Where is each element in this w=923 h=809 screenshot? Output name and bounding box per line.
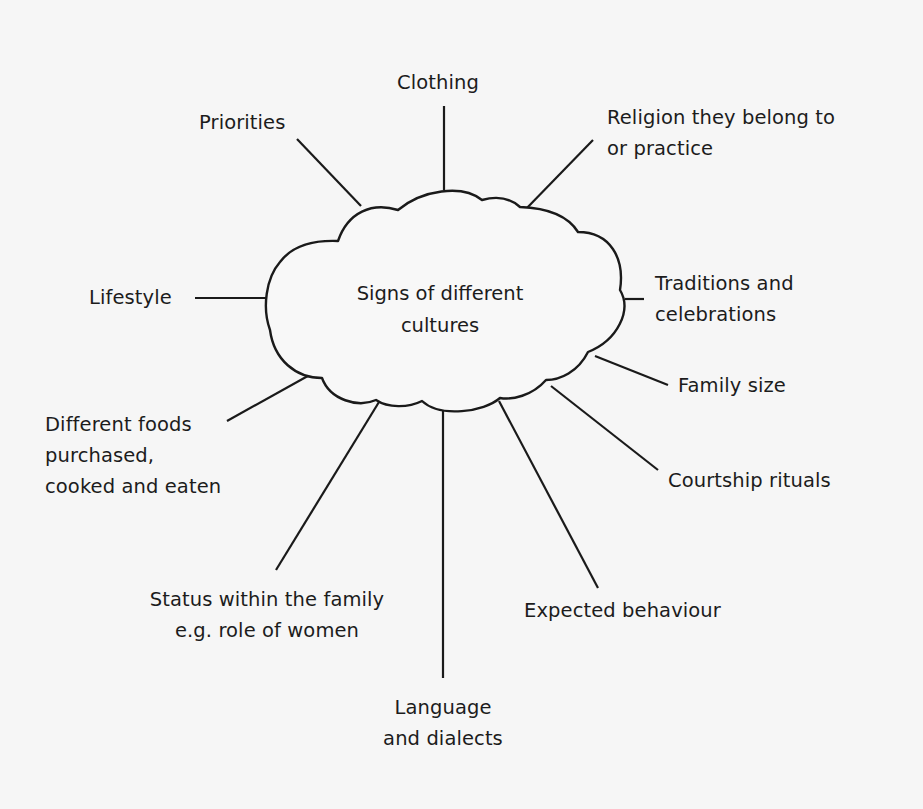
node-traditions-line-2: celebrations bbox=[655, 299, 794, 330]
node-expected-behaviour-text: Expected behaviour bbox=[524, 595, 721, 626]
node-language-line-1: Language bbox=[365, 692, 521, 723]
spoke-expected-behaviour bbox=[499, 401, 598, 588]
spoke-religion bbox=[524, 140, 593, 211]
node-different-foods-line-1: Different foods bbox=[45, 409, 221, 440]
node-language-line-2: and dialects bbox=[365, 723, 521, 754]
spoke-different-foods bbox=[227, 372, 315, 421]
spoke-family-size bbox=[595, 356, 668, 385]
node-traditions: Traditions and celebrations bbox=[655, 268, 794, 330]
spoke-priorities bbox=[297, 139, 361, 206]
node-status-line-1: Status within the family bbox=[132, 584, 402, 615]
node-priorities: Priorities bbox=[199, 107, 285, 138]
node-clothing: Clothing bbox=[397, 67, 479, 98]
node-status: Status within the family e.g. role of wo… bbox=[132, 584, 402, 646]
node-different-foods-line-2: purchased, bbox=[45, 440, 221, 471]
spoke-courtship bbox=[551, 386, 658, 470]
node-different-foods: Different foods purchased, cooked and ea… bbox=[45, 409, 221, 502]
node-religion: Religion they belong to or practice bbox=[607, 102, 835, 164]
node-courtship: Courtship rituals bbox=[668, 465, 831, 496]
node-lifestyle: Lifestyle bbox=[89, 282, 172, 313]
node-priorities-text: Priorities bbox=[199, 107, 285, 138]
node-religion-line-1: Religion they belong to bbox=[607, 102, 835, 133]
central-topic-line-1: Signs of different bbox=[310, 278, 570, 310]
central-topic-line-2: cultures bbox=[310, 310, 570, 342]
node-different-foods-line-3: cooked and eaten bbox=[45, 471, 221, 502]
node-expected-behaviour: Expected behaviour bbox=[524, 595, 721, 626]
node-traditions-line-1: Traditions and bbox=[655, 268, 794, 299]
central-topic: Signs of different cultures bbox=[310, 278, 570, 342]
mind-map-diagram: Signs of different cultures Clothing Pri… bbox=[0, 0, 923, 809]
node-clothing-text: Clothing bbox=[397, 67, 479, 98]
node-family-size: Family size bbox=[678, 370, 786, 401]
node-courtship-text: Courtship rituals bbox=[668, 465, 831, 496]
node-religion-line-2: or practice bbox=[607, 133, 835, 164]
node-lifestyle-text: Lifestyle bbox=[89, 282, 172, 313]
spoke-status bbox=[276, 402, 379, 570]
node-status-line-2: e.g. role of women bbox=[132, 615, 402, 646]
node-language: Language and dialects bbox=[365, 692, 521, 754]
node-family-size-text: Family size bbox=[678, 370, 786, 401]
